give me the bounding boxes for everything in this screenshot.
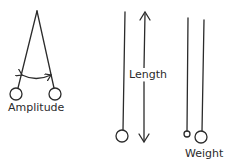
heavy-pendulum-bob: [195, 131, 207, 143]
amplitude-pendulum: [10, 11, 61, 100]
pendulum-bob-left: [10, 88, 22, 100]
light-pendulum-bob: [184, 131, 190, 137]
weight-label: Weight: [185, 147, 223, 160]
long-pendulum-string: [123, 12, 125, 130]
heavy-pendulum-string: [202, 20, 204, 131]
light-pendulum-string: [187, 18, 188, 131]
pendulum-bob-right: [49, 88, 61, 100]
weight-pendulums: [184, 18, 207, 143]
length-arrow-upper: [144, 14, 145, 68]
amplitude-label: Amplitude: [8, 101, 64, 114]
amplitude-arc-arrow: [22, 75, 51, 79]
pendulum-string-left: [18, 11, 37, 88]
long-pendulum-bob: [116, 130, 128, 142]
length-label: Length: [128, 68, 168, 81]
pendulum-diagram: [0, 0, 231, 167]
